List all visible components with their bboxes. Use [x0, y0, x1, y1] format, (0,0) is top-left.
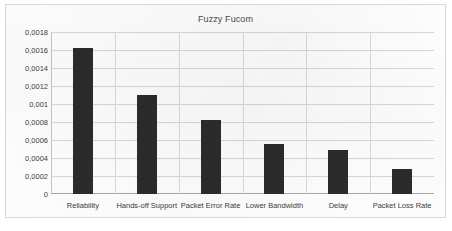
plot-area	[51, 32, 434, 194]
y-tick-label: 0,0018	[25, 28, 48, 37]
gridline-vertical	[179, 32, 180, 194]
x-tick-label: Hands-off Support	[116, 201, 177, 210]
gridline-vertical	[370, 32, 371, 194]
x-axis-tick-labels: ReliabilityHands-off SupportPacket Error…	[51, 201, 434, 215]
bar	[73, 48, 93, 194]
bar	[264, 144, 284, 194]
gridline-vertical	[306, 32, 307, 194]
bar	[328, 150, 348, 194]
y-tick-label: 0,001	[29, 100, 48, 109]
y-tick-label: 0,0006	[25, 136, 48, 145]
y-tick-label: 0	[44, 190, 48, 199]
x-tick-label: Packet Loss Rate	[373, 201, 432, 210]
x-tick-label: Lower Bandwidth	[246, 201, 304, 210]
y-tick-label: 0,0002	[25, 172, 48, 181]
y-axis-tick-labels: 0,00180,00160,00140,00120,0010,00080,000…	[9, 32, 48, 194]
y-tick-label: 0,0014	[25, 64, 48, 73]
y-tick-label: 0,0012	[25, 82, 48, 91]
x-tick-label: Delay	[329, 201, 348, 210]
y-tick-label: 0,0008	[25, 118, 48, 127]
bar	[392, 169, 412, 194]
bar	[137, 95, 157, 194]
chart-figure: Fuzzy Fucom 0,00180,00160,00140,00120,00…	[5, 4, 446, 218]
x-tick-label: Reliability	[67, 201, 99, 210]
y-tick-label: 0,0004	[25, 154, 48, 163]
bar	[201, 120, 221, 194]
gridline-vertical	[243, 32, 244, 194]
y-tick-label: 0,0016	[25, 46, 48, 55]
x-tick-label: Packet Error Rate	[181, 201, 241, 210]
y-axis-line	[51, 32, 52, 194]
chart-title: Fuzzy Fucom	[6, 14, 445, 24]
gridline-vertical	[115, 32, 116, 194]
